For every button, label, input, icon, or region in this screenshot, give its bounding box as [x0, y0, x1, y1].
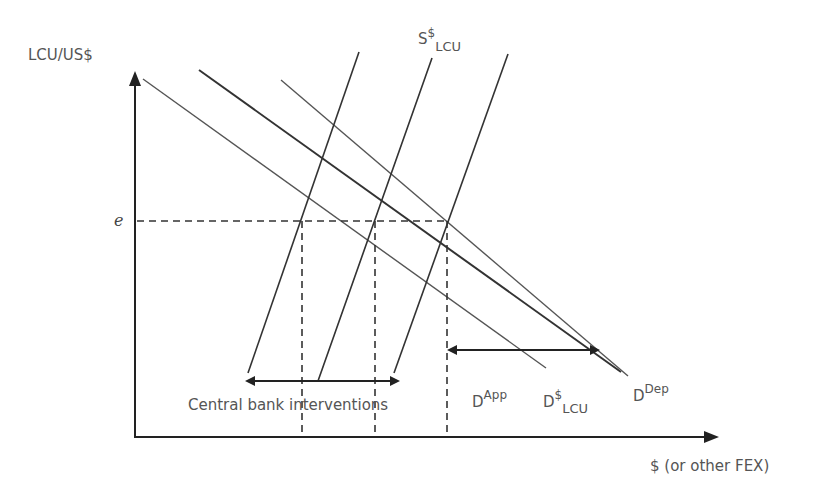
x-axis-arrow-icon — [704, 431, 719, 443]
demand-curve-dep — [281, 80, 628, 376]
demand-curve-dep-label: DDep — [633, 382, 669, 405]
demand-curve-lcu-label: D$LCU — [543, 388, 588, 416]
intervention-label: Central bank interventions — [188, 396, 388, 414]
x-axis-label: $ (or other FEX) — [650, 457, 769, 475]
axes — [129, 71, 719, 443]
y-axis-arrow-icon — [129, 71, 141, 86]
demand-curves — [143, 70, 628, 376]
supply-curve-left — [248, 52, 359, 373]
demand-curve-app-label: DApp — [472, 388, 507, 411]
y-axis-label: LCU/US$ — [28, 46, 93, 64]
supply-curves — [248, 52, 508, 381]
fx-market-diagram: LCU/US$ $ (or other FEX) e S$LCU Central… — [0, 0, 826, 494]
supply-curve-label: S$LCU — [418, 26, 461, 54]
supply-curve-right — [394, 54, 508, 373]
equilibrium-rate-label: e — [114, 211, 123, 230]
demand-curve-app — [143, 79, 546, 368]
